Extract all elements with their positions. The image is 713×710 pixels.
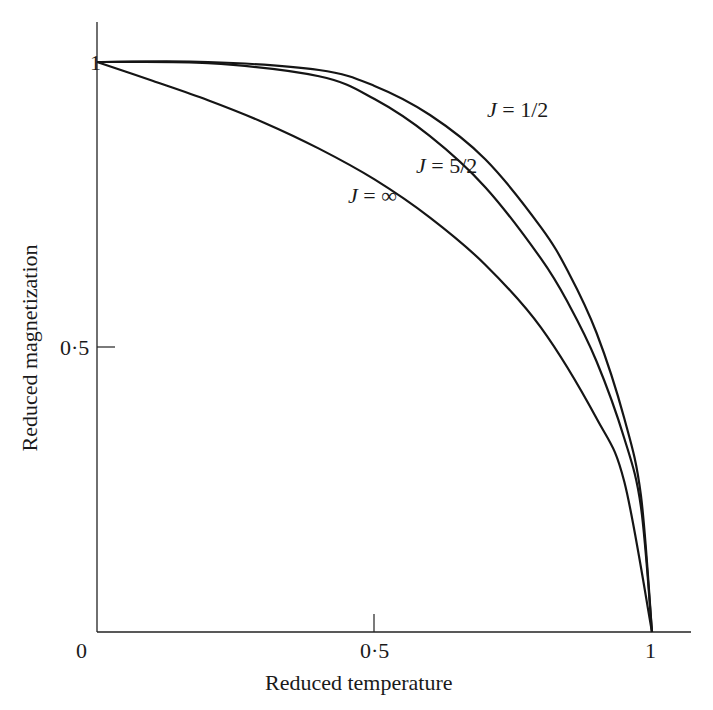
label-j-inf: J = ∞ (348, 183, 397, 209)
curve-j-inf (97, 62, 652, 632)
x-tick-label-0.5: 0·5 (360, 638, 389, 664)
x-tick-label-1: 1 (645, 638, 656, 664)
chart-plot-area (0, 0, 713, 710)
curve-j-5-2 (97, 62, 652, 632)
y-axis-title: Reduced magnetization (17, 238, 43, 458)
x-tick-label-0: 0 (76, 638, 87, 664)
curve-j-half (97, 61, 652, 632)
curves (97, 61, 652, 632)
label-j-5-2: J = 5/2 (416, 153, 477, 179)
label-j-half: J = 1/2 (487, 97, 548, 123)
y-tick-label-1: 1 (90, 50, 101, 76)
x-axis-title: Reduced temperature (265, 670, 453, 696)
y-tick-label-0.5: 0·5 (60, 335, 89, 361)
